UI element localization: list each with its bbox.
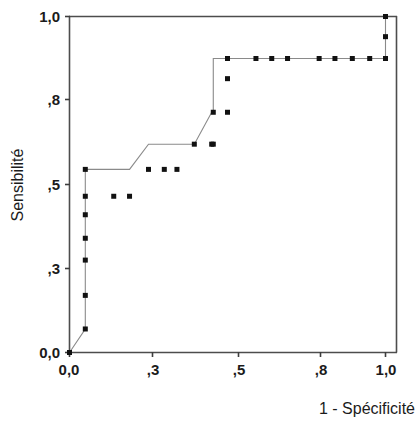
x-tick-label-0.3: ,3 xyxy=(147,361,160,378)
roc-chart: 1,0 ,8 ,5 ,3 0,0 0,0 ,3 ,5 ,8 1,0 Sensib… xyxy=(0,0,417,423)
roc-data-point xyxy=(111,194,116,199)
y-tick-label-1.0: 1,0 xyxy=(39,8,60,25)
x-tick-label-1.0: 1,0 xyxy=(376,361,397,378)
x-axis-tick-labels: 0,0 ,3 ,5 ,8 1,0 xyxy=(59,361,397,378)
roc-data-point xyxy=(253,56,258,61)
roc-data-point xyxy=(269,56,274,61)
roc-data-point xyxy=(211,142,216,147)
y-tick-label-0.3: ,3 xyxy=(47,260,60,277)
roc-data-point xyxy=(332,56,337,61)
roc-data-point xyxy=(83,236,88,241)
roc-data-markers xyxy=(67,14,388,355)
roc-data-point xyxy=(83,293,88,298)
roc-data-point xyxy=(83,194,88,199)
y-axis-title: Sensibilité xyxy=(9,148,26,221)
x-tick-label-0.5: ,5 xyxy=(233,361,246,378)
x-axis-title: 1 - Spécificité xyxy=(319,400,415,417)
roc-plot-svg: 1,0 ,8 ,5 ,3 0,0 0,0 ,3 ,5 ,8 1,0 Sensib… xyxy=(0,0,417,423)
roc-data-point xyxy=(67,350,72,355)
roc-data-point xyxy=(225,110,230,115)
roc-data-point xyxy=(83,212,88,217)
roc-data-point xyxy=(383,14,388,19)
plot-frame xyxy=(69,16,397,353)
roc-data-point xyxy=(146,167,151,172)
y-tick-label-0.0: 0,0 xyxy=(39,344,60,361)
roc-curve-line xyxy=(70,17,386,353)
roc-data-point xyxy=(127,194,132,199)
roc-data-point xyxy=(83,258,88,263)
y-tick-label-0.8: ,8 xyxy=(47,91,60,108)
roc-data-point xyxy=(367,56,372,61)
roc-data-point xyxy=(350,56,355,61)
roc-data-point xyxy=(83,326,88,331)
roc-data-point xyxy=(383,56,388,61)
roc-data-point xyxy=(225,56,230,61)
roc-data-point xyxy=(162,167,167,172)
y-tick-label-0.5: ,5 xyxy=(47,176,60,193)
roc-data-point xyxy=(317,56,322,61)
roc-data-point xyxy=(83,167,88,172)
roc-data-point xyxy=(225,76,230,81)
x-tick-label-0.0: 0,0 xyxy=(59,361,80,378)
roc-data-point xyxy=(383,34,388,39)
roc-data-point xyxy=(211,110,216,115)
roc-step-path xyxy=(70,17,386,353)
roc-data-point xyxy=(285,56,290,61)
y-axis-tick-labels: 1,0 ,8 ,5 ,3 0,0 xyxy=(39,8,60,361)
roc-data-point xyxy=(174,167,179,172)
roc-data-point xyxy=(192,142,197,147)
x-tick-label-0.8: ,8 xyxy=(315,361,328,378)
